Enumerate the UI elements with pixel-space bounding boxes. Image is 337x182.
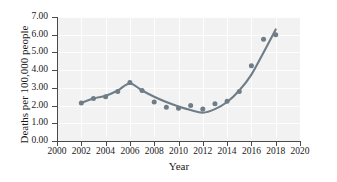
data-point — [176, 106, 181, 111]
data-point — [91, 96, 96, 101]
x-tick-label: 2008 — [145, 147, 164, 157]
data-point — [273, 32, 278, 37]
x-tick-label: 2012 — [193, 147, 212, 157]
data-point — [127, 80, 132, 85]
y-tick-label: 1.00 — [31, 118, 48, 128]
y-tick-label: 0.00 — [31, 136, 48, 146]
x-tick-label: 2014 — [218, 147, 237, 157]
x-axis-title: Year — [57, 161, 301, 172]
data-point — [212, 101, 217, 106]
data-point — [237, 89, 242, 94]
scatter-markers — [79, 32, 278, 111]
data-point — [140, 88, 145, 93]
chart-figure: Deaths per 100,000 people Year 0.001.002… — [0, 0, 337, 182]
x-tick-label: 2002 — [72, 147, 91, 157]
x-tick-label: 2018 — [266, 147, 285, 157]
y-axis-title: Deaths per 100,000 people — [19, 15, 30, 155]
y-tick-label: 6.00 — [31, 30, 48, 40]
x-tick-label: 2004 — [96, 147, 115, 157]
data-point — [152, 100, 157, 105]
x-tick-label: 2000 — [48, 147, 67, 157]
y-tick-label: 5.00 — [31, 47, 48, 57]
data-point — [225, 99, 230, 104]
data-point — [115, 89, 120, 94]
x-tick-label: 2020 — [291, 147, 310, 157]
data-point — [164, 105, 169, 110]
data-point — [249, 63, 254, 68]
x-tick-label: 2006 — [120, 147, 139, 157]
fitted-trend-line — [81, 29, 275, 112]
data-point — [188, 103, 193, 108]
data-point — [261, 37, 266, 42]
y-tick-label: 2.00 — [31, 101, 48, 111]
data-point — [200, 107, 205, 112]
x-tick-label: 2016 — [242, 147, 261, 157]
x-tick-label: 2010 — [169, 147, 188, 157]
y-tick-label: 4.00 — [31, 65, 48, 75]
data-point — [79, 100, 84, 105]
data-point — [103, 94, 108, 99]
y-tick-label: 3.00 — [31, 83, 48, 93]
y-tick-label: 7.00 — [31, 12, 48, 22]
